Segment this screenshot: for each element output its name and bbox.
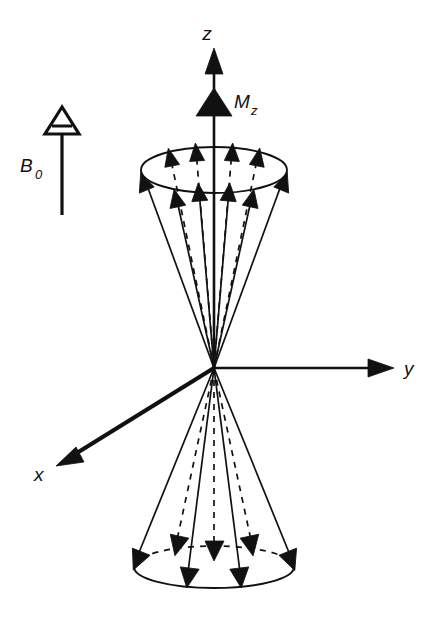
moment-arrowhead-up [188, 142, 204, 161]
b0-arrowhead-outline-icon [45, 107, 79, 134]
mz-arrowhead [196, 88, 232, 116]
b0-field-vector-group [45, 107, 79, 215]
x-axis-line [72, 368, 214, 456]
x-axis-group [56, 368, 214, 466]
field-label: B 0 [20, 155, 43, 182]
precession-cone-diagram: z y x M z B 0 [0, 0, 432, 626]
field-label-base: B [20, 155, 33, 176]
moment-arrowhead-down [240, 534, 263, 558]
z-axis-arrowhead [205, 48, 223, 74]
moment-arrowhead-down [125, 548, 150, 574]
lower-cone-rim-front-arc [134, 567, 294, 588]
lower-cone-group [125, 368, 304, 589]
magnetization-vector-group [196, 88, 232, 116]
magnetization-label: M z [234, 91, 258, 118]
upper-cone-front-vector [214, 190, 229, 368]
field-label-subscript: 0 [35, 167, 43, 182]
magnetization-label-subscript: z [250, 103, 258, 118]
upper-cone-front-vector [199, 190, 214, 368]
z-axis-label: z [201, 23, 212, 44]
y-axis-group [214, 359, 394, 377]
moment-arrowhead-down [279, 548, 304, 574]
figure-root: z y x M z B 0 [0, 0, 432, 626]
magnetization-label-base: M [234, 91, 250, 112]
y-axis-label: y [402, 358, 415, 379]
moment-arrowhead-up [224, 142, 240, 161]
moment-arrowhead-down [166, 534, 189, 558]
x-axis-label: x [33, 464, 45, 485]
moment-arrowhead-down [205, 541, 224, 561]
y-axis-arrowhead [368, 359, 394, 377]
lower-cone-dashed-vectors [177, 368, 251, 545]
